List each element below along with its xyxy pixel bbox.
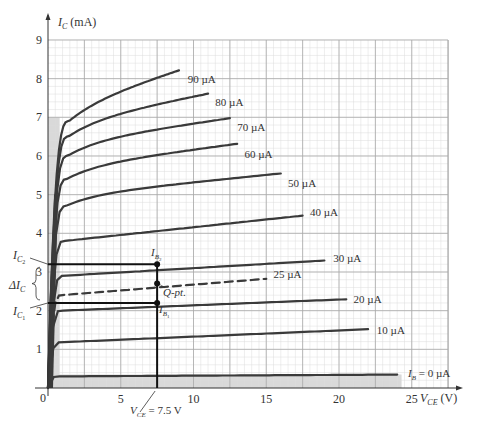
q-point-label: Q-pt. xyxy=(163,286,186,298)
y-tick-label: 6 xyxy=(36,149,42,163)
x-tick-label: 10 xyxy=(188,392,200,406)
ic2-label: IC2 xyxy=(12,248,25,265)
y-tick-label: 1 xyxy=(36,342,42,356)
ib2-label: IB2 xyxy=(150,246,162,262)
x-tick-label: 20 xyxy=(333,392,345,406)
origin-label: 0 xyxy=(40,391,46,405)
y-axis-label: IC (mA) xyxy=(57,15,96,31)
x-tick-label: 15 xyxy=(260,392,272,406)
axes: 510152025123456789 xyxy=(35,13,463,406)
curve-label: 20 µA xyxy=(354,293,382,305)
curve-label: 40 µA xyxy=(310,206,338,218)
curve-label: 50 µA xyxy=(288,177,316,189)
curve-label: 70 µA xyxy=(237,121,265,133)
y-tick-label: 8 xyxy=(36,72,42,86)
curve-label: 30 µA xyxy=(333,252,361,264)
ib0-label: IB = 0 µA xyxy=(407,367,450,382)
x-tick-label: 25 xyxy=(406,392,418,406)
curve-label: 60 µA xyxy=(244,148,272,160)
delta-ic-label: ΔIC xyxy=(8,278,26,294)
vce-annotation: VCE = 7.5 V xyxy=(130,404,182,419)
ib2-point xyxy=(154,261,160,267)
y-axis-arrow xyxy=(46,13,51,20)
y-tick-label: 7 xyxy=(36,110,42,124)
x-tick-label: 5 xyxy=(118,392,124,406)
y-tick-label: 4 xyxy=(36,226,42,240)
curve-label: 10 µA xyxy=(377,324,405,336)
curve-label: 80 µA xyxy=(215,96,243,108)
transistor-characteristics-chart: 10 µA20 µA25 µA30 µA40 µA50 µA60 µA70 µA… xyxy=(0,0,490,424)
q-point xyxy=(154,281,160,287)
collector-curves: 10 µA20 µA25 µA30 µA40 µA50 µA60 µA70 µA… xyxy=(48,70,405,388)
y-tick-label: 9 xyxy=(36,33,42,47)
x-axis-label: VCE (V) xyxy=(420,391,457,407)
x-axis-arrow xyxy=(456,386,463,391)
ic1-label: IC1 xyxy=(12,304,25,321)
curve-label: 90 µA xyxy=(188,73,216,85)
y-tick-label: 5 xyxy=(36,188,42,202)
ic2-leader xyxy=(30,258,48,264)
curve-label: 25 µA xyxy=(274,268,302,280)
